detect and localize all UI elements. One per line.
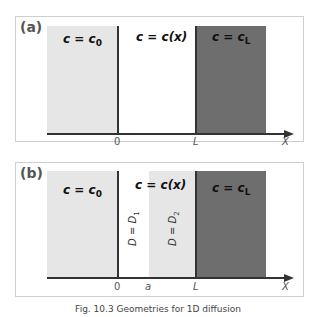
panel-b-label-cl: c = cL <box>212 181 250 197</box>
panel-a-tick-l: L <box>193 136 199 147</box>
panel-b-label-d1: D = D1 <box>127 211 141 246</box>
figure-caption: Fig. 10.3 Geometries for 1D diffusion <box>0 304 316 314</box>
panel-a-label: (a) <box>20 19 42 35</box>
panel-b-label-d2: D = D2 <box>167 211 181 246</box>
panel-b-label: (b) <box>20 165 43 181</box>
panel-a-boundary-l <box>195 26 197 134</box>
panel-b-tick-l: L <box>193 281 199 292</box>
panel-a-label-cl: c = cL <box>212 30 250 46</box>
panel-a-label-c0: c = c0 <box>63 32 102 48</box>
panel-b-label-cx: c = c(x) <box>135 178 186 192</box>
panel-a-tick-0: 0 <box>114 136 120 147</box>
panel-a-label-cx: c = c(x) <box>136 30 187 44</box>
panel-a-axis-label: X <box>282 136 289 147</box>
panel-a-x-axis <box>47 133 285 135</box>
panel-b-axis-label: X <box>282 281 289 292</box>
panel-b-tick-a: a <box>145 281 151 292</box>
panel-a-boundary-0 <box>117 26 119 134</box>
panel-b-x-axis <box>47 277 285 279</box>
panel-b-boundary-l <box>195 171 197 278</box>
panel-b-label-c0: c = c0 <box>63 183 102 199</box>
panel-b-tick-0: 0 <box>114 281 120 292</box>
panel-b-boundary-0 <box>117 171 119 278</box>
